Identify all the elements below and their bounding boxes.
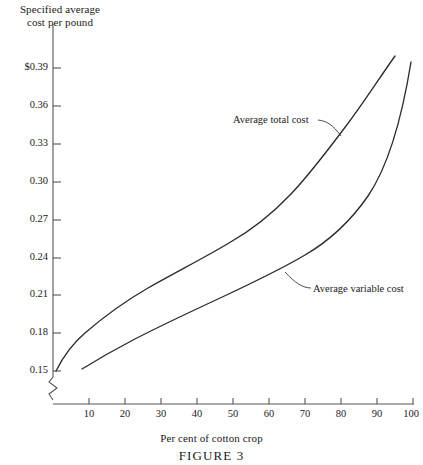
leader-line-variable-cost	[285, 272, 311, 288]
x-tick-label-90: 90	[362, 408, 392, 419]
x-tick-label-10: 10	[74, 408, 104, 419]
y-tick-label-039: $0.39	[0, 61, 48, 72]
annotation-average-variable-cost: Average variable cost	[313, 283, 404, 294]
x-tick-label-80: 80	[326, 408, 356, 419]
y-tick-label-021: 0.21	[0, 288, 48, 299]
x-tick-label-50: 50	[218, 408, 248, 419]
y-tick-label-033: 0.33	[0, 137, 48, 148]
annotation-average-total-cost: Average total cost	[233, 114, 309, 125]
chart-canvas	[0, 0, 423, 465]
x-tick-label-100: 100	[396, 408, 423, 419]
x-tick-marks	[89, 398, 413, 404]
curve-average-variable-cost	[82, 62, 411, 369]
annotation-leader-lines	[285, 120, 341, 288]
x-tick-label-20: 20	[110, 408, 140, 419]
y-axis-title: Specified average cost per pound	[4, 3, 116, 29]
y-tick-label-036: 0.36	[0, 99, 48, 110]
figure-container: Specified average cost per pound $0.39 0…	[0, 0, 423, 465]
x-tick-label-30: 30	[146, 408, 176, 419]
y-tick-label-018: 0.18	[0, 326, 48, 337]
y-axis-title-line-2: cost per pound	[4, 16, 116, 29]
leader-line-total-cost	[318, 120, 341, 136]
curve-average-total-cost	[56, 56, 395, 371]
x-axis-title: Per cent of cotton crop	[0, 432, 423, 445]
y-tick-label-015: 0.15	[0, 364, 48, 375]
y-axis-title-line-1: Specified average	[20, 3, 100, 15]
axes	[49, 24, 414, 404]
data-curves	[56, 56, 411, 371]
y-tick-label-027: 0.27	[0, 213, 48, 224]
x-tick-label-60: 60	[254, 408, 284, 419]
y-tick-label-024: 0.24	[0, 251, 48, 262]
x-tick-label-40: 40	[182, 408, 212, 419]
y-tick-marks	[53, 68, 61, 371]
y-axis-line	[49, 24, 57, 400]
figure-caption: FIGURE 3	[0, 448, 423, 464]
y-tick-label-030: 0.30	[0, 175, 48, 186]
x-tick-label-70: 70	[290, 408, 320, 419]
